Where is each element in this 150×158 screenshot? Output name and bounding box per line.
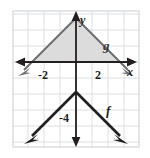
y-tick-label-neg4: -4	[59, 111, 69, 125]
y-axis-label: y	[78, 13, 86, 27]
coordinate-plane-svg: y x -2 2 -4 g f	[0, 0, 150, 158]
curve-label-g: g	[102, 38, 110, 53]
x-tick-label-pos2: 2	[95, 68, 101, 82]
x-axis-label: x	[126, 65, 133, 79]
x-tick-label-neg2: -2	[38, 68, 48, 82]
graph-figure: y x -2 2 -4 g f	[0, 0, 150, 158]
